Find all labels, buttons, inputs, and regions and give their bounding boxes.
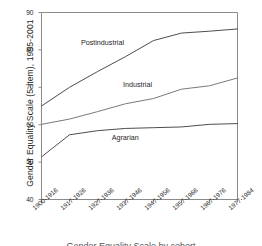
series-label-postindustrial: Postindustrial — [81, 38, 124, 47]
series-line-postindustrial — [42, 29, 238, 106]
y-axis-tick-label: 70 — [16, 83, 34, 90]
series-label-industrial: Industrial — [123, 80, 152, 89]
y-axis-tick-label: 60 — [16, 121, 34, 128]
y-axis-tick-label: 40 — [16, 196, 34, 203]
y-axis-tick-label: 80 — [16, 46, 34, 53]
axis-frame — [42, 13, 238, 200]
chart-figure: Gender Equality Scale (5-item), 1995-200… — [0, 0, 262, 246]
y-axis-tick-label: 50 — [16, 158, 34, 165]
series-label-agrarian: Agrarian — [112, 133, 139, 142]
figure-caption: Gender Equality Scale by cohort — [0, 238, 262, 246]
series-line-agrarian — [42, 124, 238, 157]
y-axis-tick-label: 90 — [16, 9, 34, 16]
plot-area — [0, 0, 262, 246]
y-axis-title: Gender Equality Scale (5-item), 1995-200… — [25, 3, 35, 203]
